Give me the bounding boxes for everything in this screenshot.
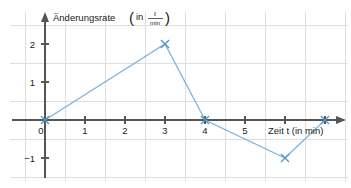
paren-close: ) [165, 9, 170, 26]
data-point-marker [281, 154, 289, 162]
grid-lines [10, 12, 348, 182]
chart-figure: 0 1 2 3 4 5 2 1 −1 Änderungsrate ( in ℓ … [0, 0, 351, 188]
y-axis-title: Änderungsrate [53, 12, 115, 23]
axes [12, 12, 346, 178]
y-axis-arrow-icon [41, 12, 49, 22]
axis-titles: Änderungsrate ( in ℓ min ) Zeit t (in mi… [53, 9, 323, 136]
unit-denominator-label: min [150, 19, 161, 26]
x-tick-label-0: 0 [38, 125, 43, 136]
change-rate-line-chart: 0 1 2 3 4 5 2 1 −1 Änderungsrate ( in ℓ … [0, 0, 351, 188]
paren-open: ( [129, 9, 134, 26]
x-axis-title: Zeit t (in min) [268, 125, 323, 136]
x-tick-label-1: 1 [82, 125, 87, 136]
x-tick-label-3: 3 [162, 125, 167, 136]
y-tick-label-2: 2 [30, 39, 35, 50]
unit-numerator-label: ℓ [154, 10, 156, 17]
x-tick-label-5: 5 [242, 125, 247, 136]
y-tick-label-minus-1: −1 [24, 153, 35, 164]
x-tick-label-2: 2 [122, 125, 127, 136]
data-point-marker [161, 40, 169, 48]
y-tick-label-1: 1 [30, 77, 35, 88]
x-tick-label-4: 4 [202, 125, 207, 136]
unit-in-label: in [136, 11, 143, 22]
